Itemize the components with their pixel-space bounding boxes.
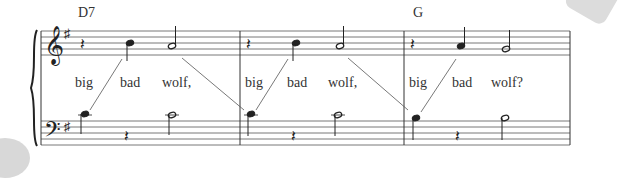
lyric-word: big (409, 75, 427, 91)
svg-text:𝄽: 𝄽 (455, 127, 460, 144)
connector-lines (90, 58, 456, 112)
svg-text:𝄽: 𝄽 (291, 127, 296, 144)
treble-staff (41, 31, 570, 55)
lyric-word: wolf, (328, 75, 357, 91)
svg-text:𝄽: 𝄽 (410, 35, 415, 52)
brace (31, 30, 37, 146)
chord-d7: D7 (78, 5, 95, 21)
lyric-word: wolf, (162, 75, 191, 91)
lyric-word: big (75, 75, 93, 91)
svg-text:𝄽: 𝄽 (124, 127, 129, 144)
bass-clef-icon: 𝄢 (44, 118, 61, 147)
lyric-word: bad (287, 75, 307, 91)
lyric-word: wolf? (491, 75, 523, 91)
bass-staff (41, 121, 570, 145)
lyric-word: bad (452, 75, 472, 91)
treble-clef-icon: 𝄞 (44, 26, 64, 66)
sharp-icon: ♯ (64, 119, 71, 134)
lyric-word: bad (120, 75, 140, 91)
svg-text:𝄽: 𝄽 (80, 35, 85, 52)
lyric-word: big (245, 75, 263, 91)
sharp-icon: ♯ (64, 26, 71, 41)
chord-g: G (413, 5, 423, 21)
svg-text:𝄽: 𝄽 (246, 35, 251, 52)
